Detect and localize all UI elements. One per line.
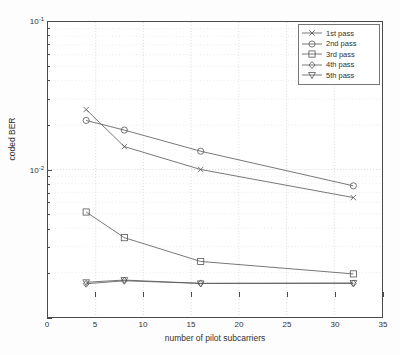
x-tick — [383, 292, 384, 297]
x-tick-label: 0 — [45, 320, 49, 329]
legend-item-4: 4th pass — [301, 60, 376, 71]
legend-marker-diamond-icon — [301, 60, 323, 70]
y-tick — [47, 80, 50, 81]
legend-item-3: 3rd pass — [301, 49, 376, 60]
legend: 1st pass2nd pass3rd pass4th pass5th pass — [298, 24, 380, 85]
y-tick — [47, 28, 50, 29]
figure-canvas: 05101520253035 10-210-1100 number of pil… — [0, 0, 400, 355]
y-tick — [47, 193, 50, 194]
legend-marker-triangle-down-icon — [301, 70, 323, 80]
x-tick — [47, 292, 48, 297]
y-tick — [47, 318, 52, 319]
legend-marker-circle-icon — [301, 39, 323, 49]
y-tick — [47, 202, 50, 203]
y-tick — [47, 125, 50, 126]
legend-item-5: 5th pass — [301, 70, 376, 81]
y-axis-label: coded BER — [7, 99, 17, 179]
legend-marker-square-icon — [301, 49, 323, 59]
legend-label: 5th pass — [323, 71, 354, 80]
x-tick-label: 15 — [187, 320, 196, 329]
x-tick — [95, 292, 96, 297]
x-tick — [191, 292, 192, 297]
y-tick — [47, 44, 50, 45]
legend-label: 2nd pass — [323, 39, 356, 48]
y-tick-label: 10-2 — [30, 164, 44, 175]
legend-marker-x-icon — [301, 28, 323, 38]
y-tick — [47, 214, 50, 215]
x-axis-label: number of pilot subcarriers — [47, 333, 383, 343]
y-tick — [47, 170, 52, 171]
y-tick — [47, 247, 50, 248]
x-tick-label: 25 — [283, 320, 292, 329]
legend-item-2: 2nd pass — [301, 39, 376, 50]
x-tick-label: 20 — [235, 320, 244, 329]
y-tick — [47, 54, 50, 55]
y-tick — [47, 21, 52, 22]
y-tick — [47, 229, 50, 230]
x-tick — [287, 292, 288, 297]
x-tick — [335, 292, 336, 297]
y-tick — [47, 273, 50, 274]
y-tick — [47, 35, 50, 36]
y-tick — [47, 99, 50, 100]
x-tick-label: 30 — [331, 320, 340, 329]
legend-label: 1st pass — [323, 29, 354, 38]
x-tick-label: 35 — [379, 320, 388, 329]
y-tick — [47, 66, 50, 67]
x-tick-label: 10 — [139, 320, 148, 329]
legend-label: 3rd pass — [323, 50, 355, 59]
x-tick-label: 5 — [93, 320, 97, 329]
legend-label: 4th pass — [323, 60, 354, 69]
y-tick-label: 10-1 — [30, 16, 44, 27]
legend-item-1: 1st pass — [301, 28, 376, 39]
x-tick — [239, 292, 240, 297]
y-tick — [47, 184, 50, 185]
x-tick — [143, 292, 144, 297]
y-tick — [47, 176, 50, 177]
